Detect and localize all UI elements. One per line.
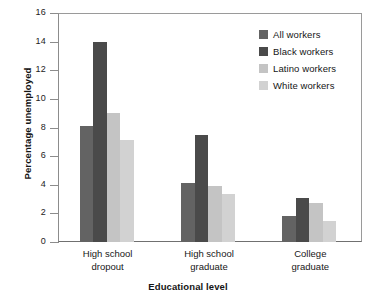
legend-item-label: All workers — [273, 29, 321, 40]
y-axis-tick-label: 4 — [6, 179, 46, 189]
legend-item: Latino workers — [259, 60, 336, 77]
legend-swatch-icon — [259, 30, 268, 39]
x-axis-title: Educational level — [0, 281, 376, 292]
y-axis-tick-label: 2 — [6, 207, 46, 217]
bar — [195, 135, 209, 242]
legend-item: White workers — [259, 77, 336, 94]
bar — [107, 113, 121, 242]
bar — [93, 42, 107, 242]
y-axis-tick-label: 12 — [6, 64, 46, 74]
y-axis-tick-label: 10 — [6, 93, 46, 103]
bar — [282, 216, 296, 242]
legend-swatch-icon — [259, 64, 268, 73]
bar — [181, 183, 195, 242]
y-axis-tick-label: 16 — [6, 7, 46, 17]
bar — [222, 194, 236, 242]
x-axis-group-label: College graduate — [255, 248, 365, 273]
bar — [120, 140, 134, 242]
y-axis-tick-label: 14 — [6, 36, 46, 46]
bar — [80, 126, 94, 242]
legend-item-label: Latino workers — [273, 63, 336, 74]
x-axis-group-label: High school graduate — [154, 248, 264, 273]
legend-item: All workers — [259, 26, 336, 43]
legend-item-label: White workers — [273, 80, 334, 91]
legend-item-label: Black workers — [273, 46, 333, 57]
bar — [296, 198, 310, 242]
legend-swatch-icon — [259, 47, 268, 56]
bar-chart: Percentage unemployed 0246810121416 High… — [0, 0, 376, 297]
legend-swatch-icon — [259, 81, 268, 90]
x-axis-group-label: High school dropout — [53, 248, 163, 273]
bar — [309, 203, 323, 242]
y-axis-tick — [50, 242, 59, 243]
y-axis-tick-label: 8 — [6, 122, 46, 132]
bar — [323, 221, 337, 242]
y-axis-tick-label: 0 — [6, 236, 46, 246]
y-axis-tick-label: 6 — [6, 150, 46, 160]
chart-legend: All workersBlack workersLatino workersWh… — [259, 26, 336, 94]
bar — [208, 186, 222, 242]
legend-item: Black workers — [259, 43, 336, 60]
